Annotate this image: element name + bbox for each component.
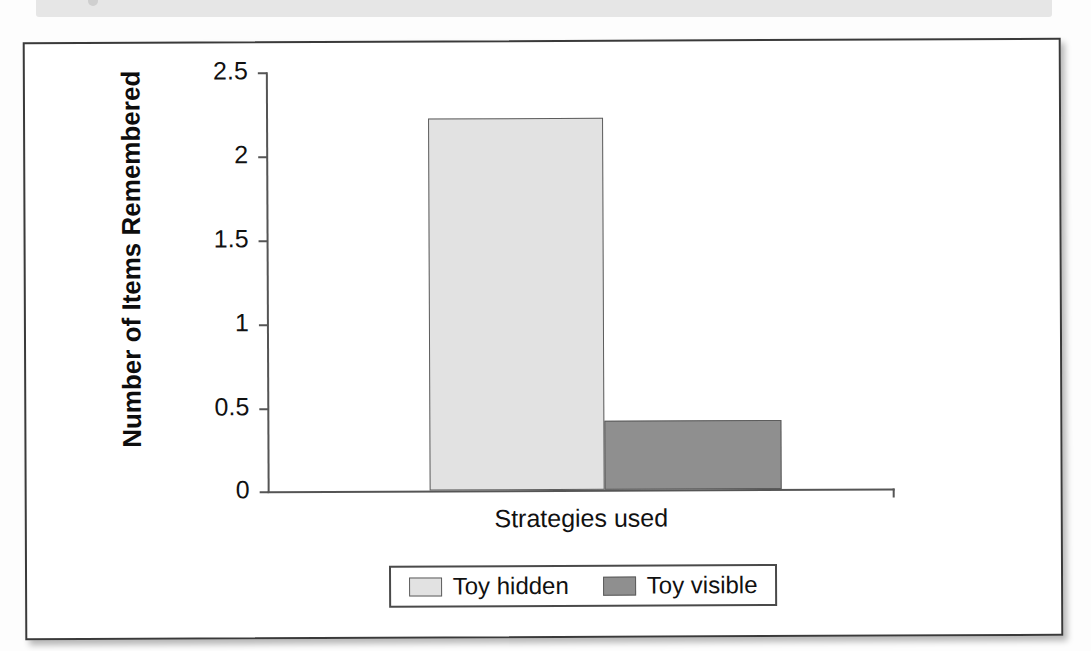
chart-legend: Toy hidden Toy visible: [389, 564, 777, 608]
legend-item-toy-hidden: Toy hidden: [409, 572, 569, 601]
scan-top-band: [36, 0, 1052, 17]
legend-label: Toy visible: [647, 571, 758, 599]
y-tick-mark: [258, 72, 267, 74]
y-tick-label: 1: [169, 308, 249, 337]
bar-chart: 2.5 2 1.5 1 0.5 0 Number of Items Rememb…: [25, 40, 1062, 639]
legend-swatch-icon: [603, 576, 636, 595]
x-axis-end-tick: [893, 488, 895, 497]
y-tick-label: 2: [168, 140, 248, 169]
figure-frame: 2.5 2 1.5 1 0.5 0 Number of Items Rememb…: [23, 38, 1064, 641]
y-tick-mark: [259, 408, 268, 410]
plot-area: [268, 69, 895, 491]
y-tick-mark: [259, 240, 268, 242]
y-tick-mark: [258, 156, 267, 158]
page-canvas: 2.5 2 1.5 1 0.5 0 Number of Items Rememb…: [0, 0, 1091, 651]
y-tick-label: 0.5: [169, 392, 249, 421]
y-axis-title: Number of Items Remembered: [115, 49, 148, 469]
y-tick-label: 0: [170, 475, 250, 504]
legend-label: Toy hidden: [453, 572, 569, 601]
legend-swatch-icon: [409, 577, 442, 596]
x-axis-title: Strategies used: [268, 502, 895, 534]
legend-item-toy-visible: Toy visible: [603, 571, 758, 600]
y-tick-label: 2.5: [168, 56, 248, 85]
y-tick-mark: [259, 324, 268, 326]
bar-toy-hidden: [428, 118, 605, 491]
bar-toy-visible: [604, 420, 781, 489]
y-tick-label: 1.5: [168, 224, 248, 253]
